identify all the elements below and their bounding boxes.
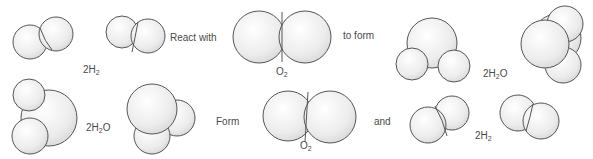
label-o2-row2: O2 [300, 140, 312, 152]
h2-molecule-2 [106, 16, 165, 53]
h2-molecule-4 [500, 95, 559, 139]
h2-molecule-1 [13, 17, 73, 59]
h2o-molecule-2 [521, 6, 583, 83]
h2o-molecule-1 [396, 18, 470, 82]
h2o-molecule-3 [12, 79, 77, 154]
label-2h2o-row2: 2H2O [86, 122, 110, 134]
connector-react-with: React with [170, 32, 217, 43]
h2o-molecule-4 [127, 84, 195, 154]
connector-form: Form [216, 116, 239, 127]
connector-and: and [374, 116, 391, 127]
label-2h2o-row1: 2H2O [483, 68, 507, 80]
o2-molecule-2 [263, 91, 356, 143]
label-2h2-row1: 2H2 [83, 64, 100, 76]
h2-molecule-3 [410, 96, 469, 143]
label-o2-row1: O2 [276, 66, 288, 78]
label-2h2-row2: 2H2 [475, 130, 492, 142]
connector-to-form: to form [343, 30, 374, 41]
